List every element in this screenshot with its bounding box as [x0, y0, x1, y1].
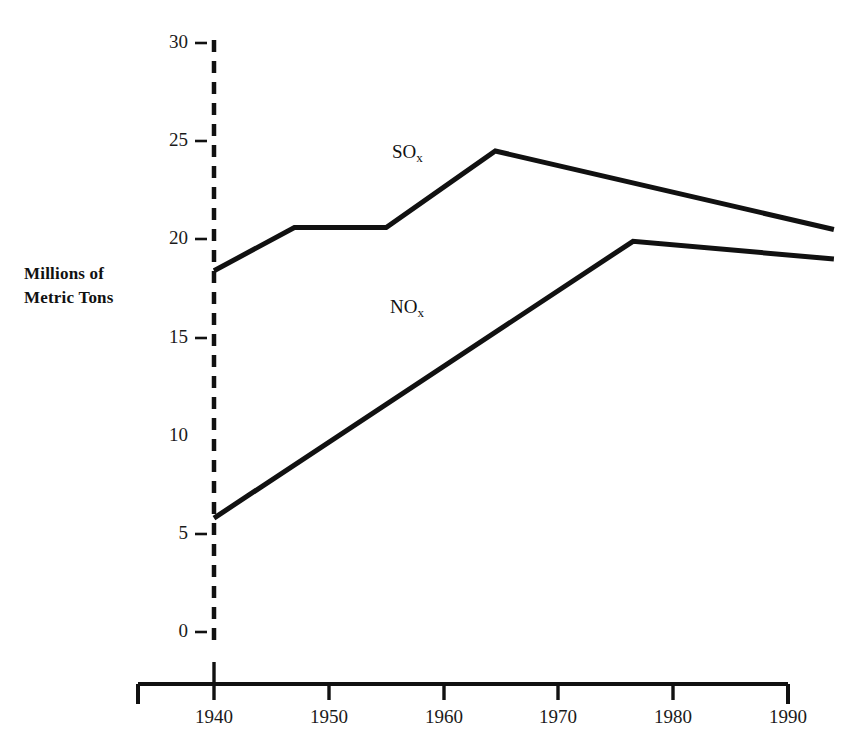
x-tick-label-1950: 1950: [294, 706, 364, 728]
y-tick-label-10: 10: [142, 424, 188, 446]
x-axis-line: [138, 684, 788, 704]
y-tick-label-25: 25: [142, 129, 188, 151]
x-tick-label-1960: 1960: [409, 706, 479, 728]
y-tick-label-20: 20: [142, 227, 188, 249]
y-axis-ticks: [195, 43, 207, 632]
series-label-sox-main: SO: [392, 141, 416, 162]
chart-plot-area: [0, 0, 860, 741]
chart-container: Millions of Metric Tons 30 25 20 15 10 5…: [0, 0, 860, 741]
series-label-nox: NOx: [390, 296, 424, 318]
x-tick-label-1980: 1980: [638, 706, 708, 728]
x-tick-label-1940: 1940: [179, 706, 249, 728]
series-label-nox-main: NO: [390, 296, 417, 317]
series-label-nox-sub: x: [417, 305, 424, 320]
x-tick-label-1990: 1990: [753, 706, 823, 728]
y-tick-label-0: 0: [142, 620, 188, 642]
series-label-sox-sub: x: [416, 150, 423, 165]
y-axis-title: Millions of Metric Tons: [24, 262, 184, 310]
y-axis-title-line2: Metric Tons: [24, 286, 184, 310]
x-tick-label-1970: 1970: [523, 706, 593, 728]
series-line-nox: [214, 241, 834, 518]
y-tick-label-5: 5: [142, 522, 188, 544]
x-axis-ticks: [214, 662, 788, 700]
y-tick-label-15: 15: [142, 326, 188, 348]
y-axis-title-line1: Millions of: [24, 262, 184, 286]
y-tick-label-30: 30: [142, 31, 188, 53]
series-label-sox: SOx: [392, 141, 423, 163]
